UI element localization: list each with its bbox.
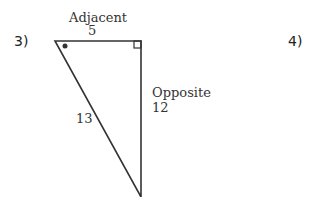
angle-marker-dot-icon	[63, 44, 68, 49]
hypotenuse-value: 13	[76, 112, 93, 126]
opposite-label: Opposite	[152, 86, 211, 100]
adjacent-value: 5	[88, 24, 96, 38]
right-angle-marker-icon	[134, 41, 141, 48]
opposite-value: 12	[152, 101, 169, 115]
triangle-shape	[55, 41, 141, 197]
adjacent-label: Adjacent	[69, 11, 127, 25]
